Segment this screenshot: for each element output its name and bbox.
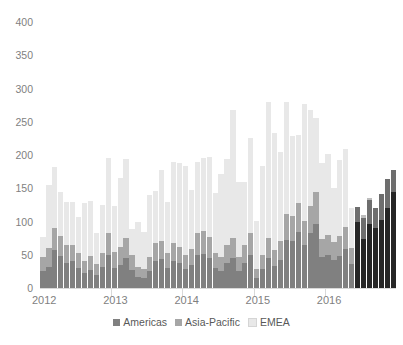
bar-segment-americas: [171, 261, 176, 288]
bar-column[interactable]: [337, 22, 342, 288]
bar-column[interactable]: [100, 22, 105, 288]
bar-column[interactable]: [236, 22, 241, 288]
bar-column[interactable]: [260, 22, 265, 288]
bar-column[interactable]: [135, 22, 140, 288]
bar-column[interactable]: [195, 22, 200, 288]
legend-label: Asia-Pacific: [185, 317, 240, 328]
bar-column[interactable]: [94, 22, 99, 288]
bar-column[interactable]: [58, 22, 63, 288]
bar-segment-emea: [313, 118, 318, 192]
bar-column[interactable]: [331, 22, 336, 288]
bar-column[interactable]: [319, 22, 324, 288]
bar-segment-emea: [218, 174, 223, 257]
bar-segment-americas: [254, 278, 259, 288]
bar-column[interactable]: [296, 22, 301, 288]
bar-column[interactable]: [266, 22, 271, 288]
chart-container: 050100150200250300350400 201220132014201…: [0, 0, 403, 345]
legend-label: EMEA: [260, 317, 290, 328]
bar-segment-americas: [100, 267, 105, 288]
bar-column[interactable]: [46, 22, 51, 288]
bar-column[interactable]: [112, 22, 117, 288]
bar-column[interactable]: [171, 22, 176, 288]
bars-layer: [40, 22, 396, 288]
bar-segment-emea: [201, 158, 206, 231]
bar-column[interactable]: [147, 22, 152, 288]
bar-segment-emea: [183, 166, 188, 255]
bar-segment-asia-pacific: [242, 245, 247, 262]
bar-segment-americas: [64, 263, 69, 288]
legend-item-americas[interactable]: Americas: [113, 317, 167, 328]
bar-segment-asia-pacific: [236, 257, 241, 270]
bar-segment-americas: [135, 277, 140, 288]
bar-column[interactable]: [313, 22, 318, 288]
bar-column[interactable]: [355, 22, 360, 288]
bar-column[interactable]: [52, 22, 57, 288]
bar-column[interactable]: [349, 22, 354, 288]
bar-segment-asia-pacific: [313, 192, 318, 224]
bar-column[interactable]: [379, 22, 384, 288]
y-tick-label: 150: [15, 183, 33, 194]
bar-column[interactable]: [129, 22, 134, 288]
bar-segment-asia-pacific: [135, 267, 140, 277]
bar-segment-americas: [284, 240, 289, 288]
bar-column[interactable]: [325, 22, 330, 288]
bar-column[interactable]: [373, 22, 378, 288]
bar-column[interactable]: [70, 22, 75, 288]
bar-column[interactable]: [343, 22, 348, 288]
bar-column[interactable]: [361, 22, 366, 288]
x-axis-separator: [254, 288, 255, 296]
bar-column[interactable]: [165, 22, 170, 288]
bar-column[interactable]: [76, 22, 81, 288]
bar-column[interactable]: [159, 22, 164, 288]
bar-column[interactable]: [248, 22, 253, 288]
bar-column[interactable]: [64, 22, 69, 288]
bar-segment-emea: [213, 193, 218, 253]
legend-item-asia-pacific[interactable]: Asia-Pacific: [175, 317, 240, 328]
bar-column[interactable]: [391, 22, 396, 288]
bar-segment-americas: [266, 258, 271, 288]
bar-column[interactable]: [207, 22, 212, 288]
bar-column[interactable]: [218, 22, 223, 288]
bar-column[interactable]: [177, 22, 182, 288]
bar-segment-asia-pacific: [129, 255, 134, 270]
bar-segment-asia-pacific: [64, 245, 69, 263]
bar-column[interactable]: [367, 22, 372, 288]
bar-column[interactable]: [123, 22, 128, 288]
bar-segment-emea: [302, 104, 307, 220]
bar-column[interactable]: [153, 22, 158, 288]
bar-segment-asia-pacific: [141, 269, 146, 278]
bar-segment-asia-pacific: [100, 253, 105, 268]
bar-column[interactable]: [385, 22, 390, 288]
bar-column[interactable]: [284, 22, 289, 288]
bar-column[interactable]: [278, 22, 283, 288]
bar-column[interactable]: [224, 22, 229, 288]
bar-column[interactable]: [254, 22, 259, 288]
bar-segment-americas: [183, 269, 188, 288]
y-tick-label: 400: [15, 17, 33, 28]
bar-column[interactable]: [290, 22, 295, 288]
bar-column[interactable]: [88, 22, 93, 288]
bar-segment-emea: [242, 182, 247, 246]
bar-column[interactable]: [183, 22, 188, 288]
bar-column[interactable]: [308, 22, 313, 288]
bar-column[interactable]: [242, 22, 247, 288]
bar-segment-asia-pacific: [355, 207, 360, 222]
bar-column[interactable]: [40, 22, 45, 288]
bar-column[interactable]: [201, 22, 206, 288]
bar-column[interactable]: [230, 22, 235, 288]
bar-column[interactable]: [82, 22, 87, 288]
bar-column[interactable]: [213, 22, 218, 288]
bar-segment-asia-pacific: [379, 194, 384, 219]
bar-column[interactable]: [118, 22, 123, 288]
bar-segment-americas: [118, 265, 123, 288]
bar-column[interactable]: [106, 22, 111, 288]
bar-segment-emea: [177, 163, 182, 247]
bar-column[interactable]: [272, 22, 277, 288]
legend-item-emea[interactable]: EMEA: [248, 317, 290, 328]
bar-column[interactable]: [302, 22, 307, 288]
bar-segment-asia-pacific: [385, 179, 390, 208]
bar-segment-americas: [290, 241, 295, 288]
bar-column[interactable]: [141, 22, 146, 288]
bar-column[interactable]: [189, 22, 194, 288]
bar-segment-emea: [284, 102, 289, 214]
